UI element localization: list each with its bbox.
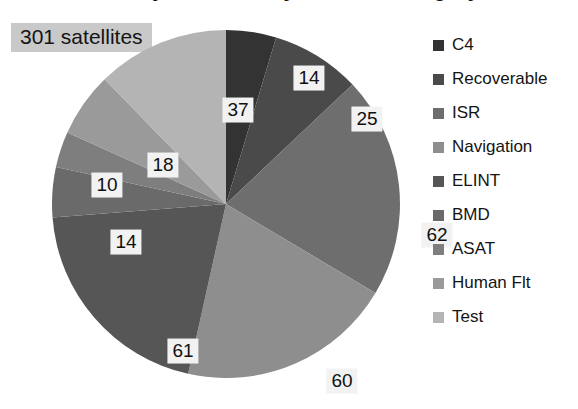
legend-item-label: Test	[452, 307, 483, 327]
page-title: Chinese Military Satellites by Mission C…	[0, 0, 420, 2]
legend-item-label: Recoverable	[452, 69, 547, 89]
legend-swatch-icon	[433, 142, 444, 153]
legend-swatch-icon	[433, 40, 444, 51]
legend-swatch-icon	[433, 108, 444, 119]
legend-item-navigation[interactable]: Navigation	[433, 130, 578, 164]
legend-item-elint[interactable]: ELINT	[433, 164, 578, 198]
chart-legend: C4RecoverableISRNavigationELINTBMDASATHu…	[433, 28, 578, 334]
pie-chart: 142562606114101837	[52, 30, 400, 378]
pie-chart-svg	[52, 30, 400, 378]
legend-item-label: ELINT	[452, 171, 500, 191]
pie-slice-value-label: 61	[167, 339, 198, 364]
legend-swatch-icon	[433, 278, 444, 289]
legend-swatch-icon	[433, 210, 444, 221]
legend-item-label: ASAT	[452, 239, 495, 259]
legend-item-isr[interactable]: ISR	[433, 96, 578, 130]
legend-item-label: BMD	[452, 205, 490, 225]
legend-swatch-icon	[433, 244, 444, 255]
legend-item-label: C4	[452, 35, 474, 55]
legend-item-test[interactable]: Test	[433, 300, 578, 334]
legend-item-recoverable[interactable]: Recoverable	[433, 62, 578, 96]
legend-swatch-icon	[433, 74, 444, 85]
legend-item-bmd[interactable]: BMD	[433, 198, 578, 232]
legend-item-label: Human Flt	[452, 273, 530, 293]
pie-slice-value-label: 18	[147, 153, 178, 178]
pie-slice-value-label: 37	[222, 98, 253, 123]
pie-slice-group	[52, 30, 400, 378]
legend-swatch-icon	[433, 176, 444, 187]
legend-item-human-flt[interactable]: Human Flt	[433, 266, 578, 300]
legend-item-c4[interactable]: C4	[433, 28, 578, 62]
pie-slice-value-label: 25	[351, 107, 382, 132]
pie-slice-value-label: 60	[326, 369, 357, 394]
pie-slice-value-label: 10	[91, 173, 122, 198]
pie-slice-value-label: 14	[110, 230, 141, 255]
pie-slice-value-label: 14	[293, 66, 324, 91]
legend-item-asat[interactable]: ASAT	[433, 232, 578, 266]
legend-item-label: ISR	[452, 103, 480, 123]
legend-swatch-icon	[433, 312, 444, 323]
legend-item-label: Navigation	[452, 137, 532, 157]
